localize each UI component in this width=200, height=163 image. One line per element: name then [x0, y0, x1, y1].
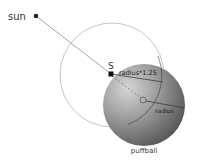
puffball-label: puffball: [131, 147, 157, 155]
s-point: [109, 72, 114, 77]
puffball-diagram: sun S radius*1.25 radius puffball: [0, 0, 200, 163]
s-point-label: S: [108, 61, 114, 71]
radius-scaled-label: radius*1.25: [119, 69, 157, 77]
radius-label: radius: [155, 107, 174, 114]
sun-label: sun: [8, 11, 26, 22]
sun-point: [34, 14, 39, 19]
